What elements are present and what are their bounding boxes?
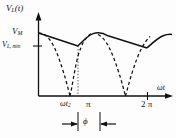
y-axis-label: VL(t) — [6, 4, 23, 14]
figure-container: VL(t) VM VL, min ωt2 π 2 π ωt ϕ — [0, 0, 176, 138]
sine-hump-2-falling — [98, 35, 126, 97]
v-max-label: VM — [12, 27, 22, 37]
conduction-angle-dimension — [62, 112, 116, 131]
x-tick-label-pi: π — [86, 100, 91, 109]
tick-marks-group — [33, 46, 148, 100]
discharge-segment-2 — [108, 36, 147, 48]
discharge-envelope-series — [39, 33, 173, 48]
phi-arrowhead-left — [71, 121, 78, 126]
x-tick-label-twopi: 2 π — [141, 100, 152, 109]
recharge-segment-2 — [147, 34, 172, 48]
phi-arrowhead-right — [100, 121, 107, 126]
x-axis-arrowhead — [165, 93, 173, 99]
x-tick-label-wt2: ωt2 — [60, 100, 71, 108]
x-axis-label: ωt — [157, 84, 165, 92]
discharge-segment-1 — [39, 33, 79, 46]
rectified-sine-series — [39, 33, 151, 96]
phi-label: ϕ — [83, 117, 88, 126]
y-axis-arrowhead — [36, 12, 42, 21]
axes-group — [36, 12, 173, 99]
waveform-plot — [0, 0, 176, 138]
v-min-label: VL, min — [2, 41, 20, 49]
